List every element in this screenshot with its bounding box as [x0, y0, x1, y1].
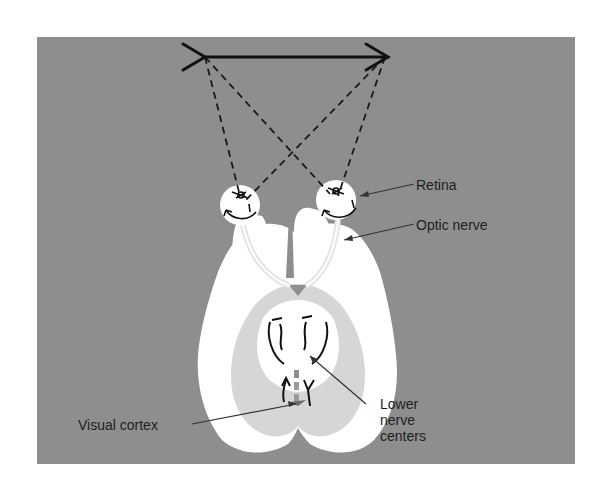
visual-pathway-diagram — [0, 0, 606, 486]
lower-nerve-centers-label: Lower nerve centers — [380, 396, 426, 444]
light-rays — [205, 57, 385, 200]
optic-nerve-label: Optic nerve — [416, 217, 488, 233]
lower-nerve-centers-line2: nerve — [380, 412, 426, 428]
lower-nerve-centers-line3: centers — [380, 428, 426, 444]
left-eye — [220, 185, 260, 225]
visual-cortex-label: Visual cortex — [78, 417, 158, 433]
retina-label: Retina — [416, 177, 456, 193]
lower-nerve-centers-line1: Lower — [380, 396, 426, 412]
